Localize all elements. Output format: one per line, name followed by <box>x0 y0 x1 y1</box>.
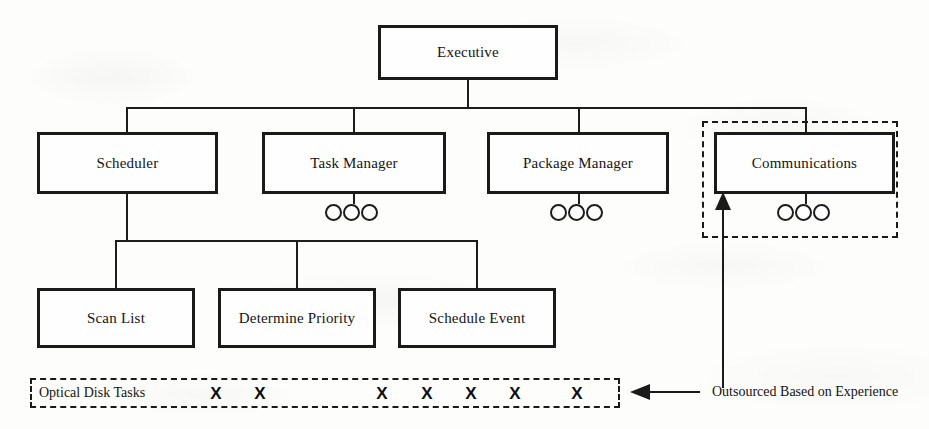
leaf-dot-icon <box>813 204 830 221</box>
task-marker-x: X <box>465 385 476 402</box>
connector-drop-package-manager <box>578 107 580 133</box>
connector-drop-task-manager <box>353 107 355 133</box>
node-package-manager[interactable]: Package Manager <box>487 132 669 194</box>
task-marker-x: X <box>210 385 221 402</box>
task-marker-x: X <box>509 385 520 402</box>
leaf-dot-icon <box>361 204 378 221</box>
connector-drop-determine-priority <box>296 240 298 288</box>
task-marker-x: X <box>254 385 265 402</box>
node-task-manager[interactable]: Task Manager <box>262 132 446 194</box>
connector-communications-dots-stem <box>805 194 807 204</box>
node-communications-label: Communications <box>752 156 857 171</box>
connector-executive-stem <box>467 80 469 108</box>
connector-drop-scan-list <box>115 240 117 288</box>
leaf-dots-package-manager <box>550 204 603 221</box>
arrow-annotation-left <box>630 384 700 400</box>
connector-task-manager-dots-stem <box>353 194 355 204</box>
connector-main-bus <box>126 107 806 109</box>
leaf-dot-icon <box>343 204 360 221</box>
leaf-dot-icon <box>550 204 567 221</box>
node-scan-list-label: Scan List <box>87 311 145 326</box>
node-scheduler-label: Scheduler <box>97 156 159 171</box>
node-schedule-event-label: Schedule Event <box>429 311 526 326</box>
node-determine-priority-label: Determine Priority <box>239 311 356 326</box>
node-scheduler[interactable]: Scheduler <box>37 132 218 194</box>
node-communications[interactable]: Communications <box>714 132 895 194</box>
node-executive-label: Executive <box>437 45 499 60</box>
leaf-dots-task-manager <box>325 204 378 221</box>
node-package-manager-label: Package Manager <box>523 156 633 171</box>
connector-drop-scheduler <box>126 107 128 133</box>
leaf-dot-icon <box>325 204 342 221</box>
leaf-dot-icon <box>568 204 585 221</box>
optical-disk-tasks-label: Optical Disk Tasks <box>32 385 145 401</box>
node-task-manager-label: Task Manager <box>310 156 398 171</box>
node-determine-priority[interactable]: Determine Priority <box>218 288 376 348</box>
connector-scheduler-stem <box>126 194 128 241</box>
connector-drop-schedule-event <box>476 240 478 288</box>
connector-package-manager-dots-stem <box>578 194 580 204</box>
task-marker-x: X <box>376 385 387 402</box>
diagram-canvas: Executive Scheduler Task Manager Package… <box>0 0 929 429</box>
task-marker-x: X <box>571 385 582 402</box>
leaf-dot-icon <box>586 204 603 221</box>
node-executive[interactable]: Executive <box>378 25 558 80</box>
annotation-outsourced: Outsourced Based on Experience <box>712 384 898 400</box>
node-schedule-event[interactable]: Schedule Event <box>398 288 556 348</box>
leaf-dot-icon <box>777 204 794 221</box>
leaf-dot-icon <box>795 204 812 221</box>
node-scan-list[interactable]: Scan List <box>37 288 195 348</box>
leaf-dots-communications <box>777 204 830 221</box>
optical-disk-tasks-bar[interactable]: Optical Disk Tasks X X X X X X X <box>30 378 620 408</box>
connector-drop-communications <box>805 107 807 133</box>
task-marker-x: X <box>421 385 432 402</box>
